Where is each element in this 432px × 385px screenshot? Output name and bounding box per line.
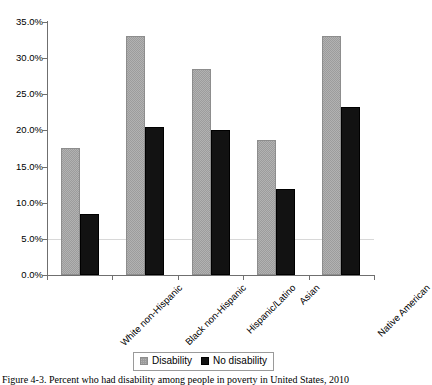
y-tick-label: 15.0% (16, 162, 43, 172)
x-tick-mark (47, 275, 48, 280)
bar-disability (192, 69, 211, 275)
legend-label: Disability (152, 355, 192, 367)
y-tick-label: 25.0% (16, 89, 43, 99)
x-tick-mark (374, 275, 375, 280)
bar-no-disability (80, 214, 99, 275)
bar-group (322, 22, 360, 275)
x-tick-mark (112, 275, 113, 280)
x-axis-line (47, 275, 375, 276)
x-axis-label: Asian (297, 282, 322, 307)
plot-area (47, 22, 374, 275)
x-tick-mark (243, 275, 244, 280)
bar-disability (126, 36, 145, 275)
legend-swatch-icon (140, 357, 148, 365)
bar-group (257, 22, 295, 275)
y-axis-ticks: 0.0%5.0%10.0%15.0%20.0%25.0%30.0%35.0% (0, 0, 43, 385)
x-axis-label: White non-Hispanic (118, 282, 184, 348)
y-tick-label: 35.0% (16, 17, 43, 27)
y-tick-label: 30.0% (16, 53, 43, 63)
bar-no-disability (276, 189, 295, 275)
bar-group (126, 22, 164, 275)
bar-no-disability (211, 130, 230, 275)
bar-group (61, 22, 99, 275)
x-tick-mark (309, 275, 310, 280)
y-tick-label: 20.0% (16, 125, 43, 135)
y-tick-label: 10.0% (16, 198, 43, 208)
x-axis-label: Hispanic/Latino (244, 282, 298, 336)
figure-caption: Figure 4-3. Percent who had disability a… (2, 374, 388, 385)
chart-legend: DisabilityNo disability (133, 352, 274, 371)
bar-group (192, 22, 230, 275)
legend-item: No disability (201, 355, 267, 367)
x-axis-label: Black non-Hispanic (183, 282, 248, 347)
x-axis-label: Native American (376, 282, 432, 339)
y-tick-label: 5.0% (21, 234, 43, 244)
legend-swatch-icon (201, 357, 209, 365)
x-tick-mark (178, 275, 179, 280)
bar-disability (257, 140, 276, 275)
legend-label: No disability (213, 355, 267, 367)
y-tick-label: 0.0% (21, 270, 43, 280)
bar-no-disability (341, 107, 360, 275)
bar-no-disability (145, 127, 164, 275)
bar-disability (322, 36, 341, 275)
bar-disability (61, 148, 80, 275)
legend-item: Disability (140, 355, 192, 367)
